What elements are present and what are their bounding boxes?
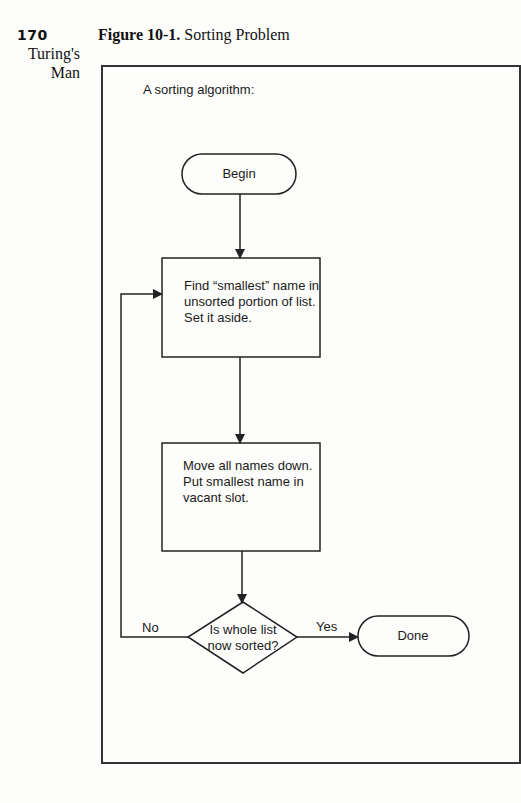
arrow-no-loop-back xyxy=(121,294,188,637)
done-label: Done xyxy=(397,628,428,643)
done-terminal: Done xyxy=(358,616,469,656)
step2-line2: Put smallest name in xyxy=(183,474,304,489)
process-box-find-smallest: Find “smallest” name in unsorted portion… xyxy=(162,258,320,357)
begin-terminal: Begin xyxy=(182,154,296,194)
step1-line2: unsorted portion of list. xyxy=(184,294,316,309)
decision-line1: Is whole list xyxy=(209,622,277,637)
step1-line1: Find “smallest” name in xyxy=(184,278,319,293)
decision-diamond: Is whole list now sorted? xyxy=(188,602,297,673)
yes-label: Yes xyxy=(316,619,338,634)
decision-line2: now sorted? xyxy=(208,638,279,653)
step2-line3: vacant slot. xyxy=(183,490,249,505)
step2-line1: Move all names down. xyxy=(183,458,312,473)
begin-label: Begin xyxy=(222,166,255,181)
process-box-move-names: Move all names down. Put smallest name i… xyxy=(162,443,320,551)
step1-line3: Set it aside. xyxy=(184,310,252,325)
no-label: No xyxy=(142,620,159,635)
